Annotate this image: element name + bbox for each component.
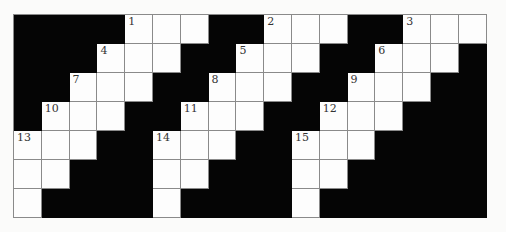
crossword-grid: 123456789101112131415: [13, 14, 487, 218]
answer-cell[interactable]: [97, 102, 125, 131]
answer-cell[interactable]: [42, 160, 70, 189]
answer-cell[interactable]: [97, 73, 125, 102]
clue-number: 8: [212, 74, 219, 85]
clue-number: 15: [295, 132, 309, 143]
block-cell: [97, 15, 125, 44]
block-cell: [42, 15, 70, 44]
block-cell: [125, 102, 153, 131]
answer-cell[interactable]: 7: [70, 73, 98, 102]
answer-cell[interactable]: [375, 73, 403, 102]
block-cell: [459, 160, 487, 189]
answer-cell[interactable]: 3: [403, 15, 431, 44]
block-cell: [264, 189, 292, 218]
answer-cell[interactable]: [320, 15, 348, 44]
answer-cell[interactable]: 8: [209, 73, 237, 102]
block-cell: [70, 160, 98, 189]
answer-cell[interactable]: 2: [264, 15, 292, 44]
block-cell: [403, 131, 431, 160]
block-cell: [375, 131, 403, 160]
block-cell: [375, 189, 403, 218]
answer-cell[interactable]: [348, 102, 376, 131]
answer-cell[interactable]: [292, 15, 320, 44]
answer-cell[interactable]: [348, 131, 376, 160]
clue-number: 13: [17, 132, 31, 143]
block-cell: [431, 73, 459, 102]
answer-cell[interactable]: [125, 73, 153, 102]
answer-cell[interactable]: [153, 160, 181, 189]
answer-cell[interactable]: 11: [181, 102, 209, 131]
answer-cell[interactable]: [153, 44, 181, 73]
block-cell: [153, 73, 181, 102]
block-cell: [14, 44, 42, 73]
answer-cell[interactable]: [14, 160, 42, 189]
block-cell: [348, 44, 376, 73]
answer-cell[interactable]: [431, 44, 459, 73]
block-cell: [348, 15, 376, 44]
answer-cell[interactable]: [181, 131, 209, 160]
answer-cell[interactable]: [459, 15, 487, 44]
answer-cell[interactable]: [209, 102, 237, 131]
block-cell: [459, 44, 487, 73]
answer-cell[interactable]: 9: [348, 73, 376, 102]
block-cell: [125, 189, 153, 218]
block-cell: [403, 102, 431, 131]
answer-cell[interactable]: [320, 160, 348, 189]
block-cell: [14, 73, 42, 102]
answer-cell[interactable]: [292, 44, 320, 73]
answer-cell[interactable]: [264, 73, 292, 102]
answer-cell[interactable]: [70, 131, 98, 160]
answer-cell[interactable]: [320, 131, 348, 160]
answer-cell[interactable]: 15: [292, 131, 320, 160]
answer-cell[interactable]: 1: [125, 15, 153, 44]
block-cell: [97, 131, 125, 160]
answer-cell[interactable]: 12: [320, 102, 348, 131]
answer-cell[interactable]: [42, 131, 70, 160]
answer-cell[interactable]: 6: [375, 44, 403, 73]
answer-cell[interactable]: 4: [97, 44, 125, 73]
answer-cell[interactable]: [431, 15, 459, 44]
block-cell: [14, 15, 42, 44]
answer-cell[interactable]: 14: [153, 131, 181, 160]
answer-cell[interactable]: [153, 189, 181, 218]
answer-cell[interactable]: [181, 160, 209, 189]
clue-number: 9: [351, 74, 358, 85]
block-cell: [209, 44, 237, 73]
answer-cell[interactable]: [181, 15, 209, 44]
clue-number: 1: [128, 16, 135, 27]
block-cell: [320, 73, 348, 102]
block-cell: [459, 131, 487, 160]
block-cell: [264, 131, 292, 160]
block-cell: [431, 189, 459, 218]
block-cell: [70, 15, 98, 44]
block-cell: [375, 160, 403, 189]
answer-cell[interactable]: [375, 102, 403, 131]
answer-cell[interactable]: [236, 102, 264, 131]
answer-cell[interactable]: [14, 189, 42, 218]
clue-number: 5: [239, 45, 246, 56]
block-cell: [348, 189, 376, 218]
answer-cell[interactable]: [236, 73, 264, 102]
block-cell: [125, 160, 153, 189]
answer-cell[interactable]: 10: [42, 102, 70, 131]
answer-cell[interactable]: [125, 44, 153, 73]
block-cell: [431, 160, 459, 189]
clue-number: 7: [73, 74, 80, 85]
answer-cell[interactable]: [292, 189, 320, 218]
answer-cell[interactable]: [403, 73, 431, 102]
block-cell: [125, 131, 153, 160]
clue-number: 11: [184, 103, 198, 114]
block-cell: [459, 73, 487, 102]
answer-cell[interactable]: [292, 160, 320, 189]
clue-number: 14: [156, 132, 170, 143]
answer-cell[interactable]: [264, 44, 292, 73]
answer-cell[interactable]: [403, 44, 431, 73]
block-cell: [320, 189, 348, 218]
block-cell: [320, 44, 348, 73]
answer-cell[interactable]: 5: [236, 44, 264, 73]
clue-number: 2: [267, 16, 274, 27]
answer-cell[interactable]: [209, 131, 237, 160]
answer-cell[interactable]: [153, 15, 181, 44]
block-cell: [459, 189, 487, 218]
answer-cell[interactable]: 13: [14, 131, 42, 160]
answer-cell[interactable]: [70, 102, 98, 131]
